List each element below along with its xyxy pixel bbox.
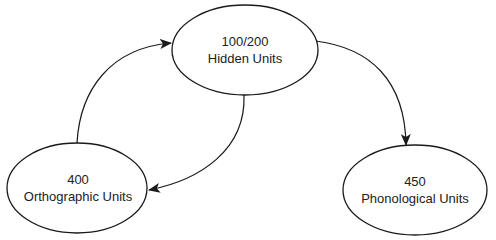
hidden-units-count: 100/200 [208,33,282,50]
edge-hidden-to-phonological [316,41,406,145]
edge-hidden-to-orthographic [149,95,244,190]
phonological-units-name: Phonological Units [361,190,469,207]
orthographic-units-count: 400 [24,171,132,188]
orthographic-units-name: Orthographic Units [24,188,132,205]
edge-orthographic-to-hidden [77,43,171,143]
phonological-units-count: 450 [361,173,469,190]
hidden-units-name: Hidden Units [208,50,282,67]
orthographic-units-label: 400 Orthographic Units [24,171,132,205]
phonological-units-label: 450 Phonological Units [361,173,469,207]
hidden-units-label: 100/200 Hidden Units [208,33,282,67]
